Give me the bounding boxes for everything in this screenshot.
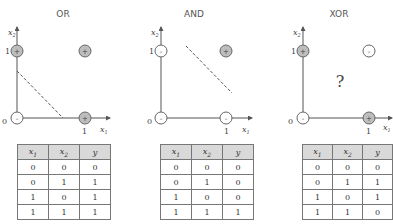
col-header-x1: x1 — [303, 145, 333, 160]
or-x-tick-1: 1 — [82, 127, 87, 136]
and-truth-table: x1 x2 y 000 010 100 111 — [160, 144, 254, 220]
xor-y-axis-label: x2 — [293, 28, 301, 38]
and-panel: AND x2 x1 1 0 1 - + - - — [147, 9, 252, 136]
or-point-0-0-negative: - — [11, 112, 23, 124]
col-header-y: y — [223, 145, 254, 160]
table-row: 111 — [18, 205, 111, 220]
and-point-0-0-negative: - — [155, 112, 167, 124]
svg-text:+: + — [366, 115, 372, 123]
col-header-y: y — [80, 145, 111, 160]
col-header-x2: x2 — [192, 145, 223, 160]
and-origin-tick: 0 — [147, 117, 152, 126]
col-header-x2: x2 — [49, 145, 80, 160]
xor-truth-table: x1 x2 y 000 011 101 110 — [302, 144, 393, 220]
table-header-row: x1 x2 y — [18, 145, 111, 160]
or-decision-boundary — [17, 71, 63, 118]
table-row: 011 — [18, 175, 111, 190]
table-header-row: x1 x2 y — [303, 145, 393, 160]
or-truth-table: x1 x2 y 000 011 101 111 — [17, 144, 111, 220]
table-row: 000 — [18, 160, 111, 175]
and-point-1-1-positive: + — [220, 45, 232, 57]
svg-text:+: + — [300, 48, 306, 56]
xor-y-tick-1: 1 — [291, 47, 296, 56]
svg-text:+: + — [82, 115, 88, 123]
col-header-x1: x1 — [18, 145, 49, 160]
table-header-row: x1 x2 y — [161, 145, 254, 160]
or-point-1-0-positive: + — [79, 112, 91, 124]
table-row: 101 — [303, 190, 393, 205]
or-point-0-1-positive: + — [11, 45, 23, 57]
and-x-axis-label: x1 — [242, 125, 250, 135]
col-header-y: y — [363, 145, 393, 160]
xor-question-mark: ? — [336, 72, 345, 91]
svg-text:+: + — [14, 48, 20, 56]
table-row: 101 — [18, 190, 111, 205]
and-y-axis-label: x2 — [151, 28, 159, 38]
xor-panel: XOR x2 x1 1 0 1 ? + - - + — [288, 9, 392, 136]
xor-point-1-0-positive: + — [363, 112, 375, 124]
or-x-axis-label: x1 — [100, 125, 108, 135]
xor-x-tick-1: 1 — [366, 127, 371, 136]
xor-point-0-1-positive: + — [297, 45, 309, 57]
table-row: 011 — [303, 175, 393, 190]
or-point-1-1-positive: + — [79, 45, 91, 57]
col-header-x1: x1 — [161, 145, 192, 160]
or-y-axis-label: x2 — [8, 28, 16, 38]
svg-text:+: + — [223, 48, 229, 56]
or-title: OR — [56, 9, 69, 19]
and-point-0-1-negative: - — [155, 45, 167, 57]
and-title: AND — [184, 9, 204, 19]
and-point-1-0-negative: - — [220, 112, 232, 124]
table-row: 010 — [161, 175, 254, 190]
xor-origin-tick: 0 — [288, 117, 293, 126]
table-row: 100 — [161, 190, 254, 205]
or-origin-tick: 0 — [2, 117, 7, 126]
xor-point-0-0-negative: - — [297, 112, 309, 124]
col-header-x2: x2 — [333, 145, 363, 160]
diagram-canvas: OR x2 x1 1 0 1 + + - + AND x2 x1 1 — [0, 0, 393, 140]
or-y-tick-1: 1 — [5, 47, 10, 56]
table-row: 000 — [161, 160, 254, 175]
or-panel: OR x2 x1 1 0 1 + + - + — [2, 9, 110, 136]
and-y-tick-1: 1 — [149, 47, 154, 56]
xor-x-axis-label: x1 — [383, 123, 391, 133]
svg-text:+: + — [82, 48, 88, 56]
and-x-tick-1: 1 — [224, 127, 229, 136]
table-row: 000 — [303, 160, 393, 175]
table-row: 111 — [161, 205, 254, 220]
table-row: 110 — [303, 205, 393, 220]
xor-point-1-1-negative: - — [363, 45, 375, 57]
xor-title: XOR — [330, 9, 349, 19]
